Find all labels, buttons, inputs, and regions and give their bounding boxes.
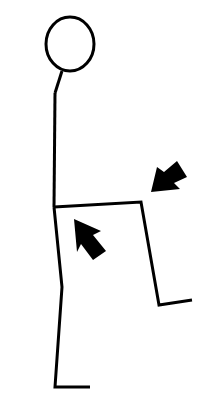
stick-figure-diagram (0, 0, 222, 409)
figure-svg (0, 0, 222, 409)
raised-leg-line (54, 202, 192, 305)
arrow-thigh-icon (74, 219, 106, 260)
head-circle (46, 17, 94, 71)
torso-line (54, 93, 55, 207)
neck-line (55, 71, 62, 93)
arrow-knee-icon (151, 161, 187, 192)
